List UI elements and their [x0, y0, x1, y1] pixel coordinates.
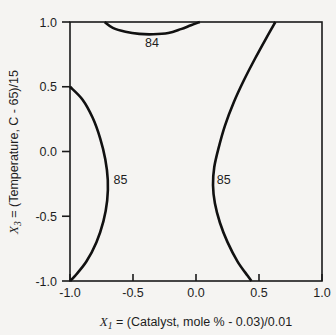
y-tick-label: -0.5 — [35, 210, 57, 224]
y-tick-label: -1.0 — [35, 275, 57, 289]
x-tick-label: -0.5 — [122, 286, 144, 300]
contour-plot-svg: -1.0-0.50.00.51.0 1.00.50.0-0.5-1.0 8485… — [0, 0, 336, 335]
contour-label-84: 84 — [145, 36, 159, 50]
contour-label-85-left: 85 — [113, 173, 127, 187]
contour-plot-figure: -1.0-0.50.00.51.0 1.00.50.0-0.5-1.0 8485… — [0, 0, 336, 335]
contour-label-85-right: 85 — [217, 173, 231, 187]
x-tick-label: 0.5 — [250, 286, 267, 300]
x-tick-label: 1.0 — [313, 286, 330, 300]
svg-text:X3 = (Temperature, C - 65)/15: X3 = (Temperature, C - 65)/15 — [6, 70, 23, 235]
y-tick-label: 0.5 — [40, 80, 57, 94]
y-tick-label: 1.0 — [40, 16, 57, 30]
x-tick-label: -1.0 — [59, 286, 81, 300]
svg-text:X1 = (Catalyst, mole % - 0.03): X1 = (Catalyst, mole % - 0.03)/0.01 — [99, 314, 292, 331]
y-axis-title: X3 = (Temperature, C - 65)/15 — [6, 70, 23, 235]
x-axis-title: X1 = (Catalyst, mole % - 0.03)/0.01 — [99, 314, 292, 331]
x-tick-label: 0.0 — [187, 286, 204, 300]
y-tick-label: 0.0 — [40, 145, 57, 159]
